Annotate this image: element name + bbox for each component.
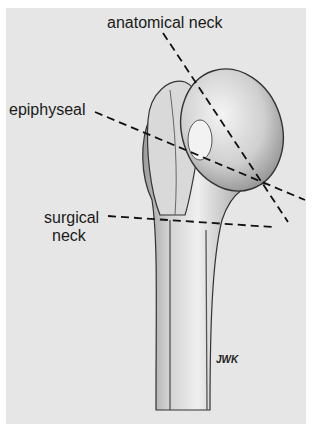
label-neck: neck <box>52 227 86 244</box>
artist-signature: JWK <box>216 354 238 365</box>
humerus-diagram: anatomical neck epiphyseal surgical neck… <box>0 0 314 434</box>
label-surgical: surgical <box>44 209 99 226</box>
label-epiphyseal: epiphyseal <box>9 101 86 118</box>
label-anatomical-neck: anatomical neck <box>107 14 223 31</box>
